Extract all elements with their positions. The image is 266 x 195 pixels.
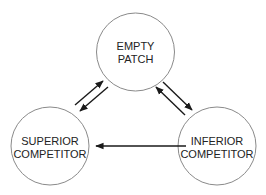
arrow-inferior-to-empty [156,87,185,115]
arrow-empty-to-inferior [163,82,192,110]
node-empty-patch: EMPTY PATCH [97,13,175,91]
inferior-competitor-label-line2: COMPETITOR [180,148,253,160]
empty-patch-circle [97,13,175,91]
node-inferior-competitor: INFERIOR COMPETITOR [178,107,256,185]
superior-competitor-label-line1: SUPERIOR [21,135,79,147]
inferior-competitor-label-line1: INFERIOR [191,135,244,147]
empty-patch-label-line2: PATCH [118,53,154,65]
empty-patch-label-line1: EMPTY [117,40,156,52]
patch-dynamics-diagram: EMPTY PATCH SUPERIOR COMPETITOR INFERIOR… [0,0,266,195]
superior-competitor-label-line2: COMPETITOR [13,148,86,160]
arrow-superior-to-empty [75,81,103,105]
node-superior-competitor: SUPERIOR COMPETITOR [11,107,89,185]
arrow-empty-to-superior [80,87,108,111]
